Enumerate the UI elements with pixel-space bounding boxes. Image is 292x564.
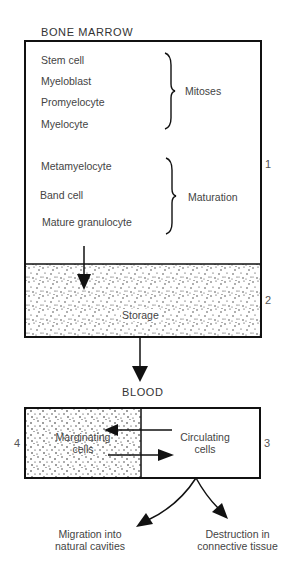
mitoses-label: Mitoses (185, 85, 221, 97)
cell-mature-granulocyte: Mature granulocyte (42, 216, 132, 228)
destruction-label-line1: Destruction in (190, 528, 285, 540)
arrow-to-destruction (196, 478, 228, 519)
circulating-label-line1: Circulating (170, 431, 240, 443)
migration-label-line2: natural cavities (45, 540, 135, 552)
cell-myelocyte: Myelocyte (41, 118, 88, 130)
cell-myeloblast: Myeloblast (41, 75, 91, 87)
destruction-label-line2: connective tissue (190, 540, 285, 552)
cell-metamyelocyte: Metamyelocyte (41, 160, 112, 172)
compartment-number-4: 4 (14, 437, 20, 449)
truncated-caption (0, 556, 292, 564)
mitoses-brace (165, 53, 175, 129)
cell-promyelocyte: Promyelocyte (41, 96, 105, 108)
storage-label: Storage (121, 309, 160, 321)
maturation-label: Maturation (188, 191, 238, 203)
cell-stem-cell: Stem cell (41, 54, 84, 66)
bone-marrow-title: BONE MARROW (41, 26, 133, 38)
blood-title: BLOOD (122, 386, 164, 398)
compartment-number-3: 3 (264, 437, 270, 449)
marginating-label-line1: Marginating (33, 431, 133, 443)
compartment-number-1: 1 (265, 158, 271, 170)
compartment-number-2: 2 (265, 294, 271, 306)
storage-region (25, 264, 261, 337)
arrow-to-migration (136, 478, 196, 527)
circulating-label-line2: cells (170, 443, 240, 455)
arrow-to-blood (132, 337, 148, 382)
maturation-brace (166, 158, 176, 234)
cell-band-cell: Band cell (40, 189, 83, 201)
migration-label-line1: Migration into (45, 528, 135, 540)
marginating-label-line2: cells (33, 443, 133, 455)
